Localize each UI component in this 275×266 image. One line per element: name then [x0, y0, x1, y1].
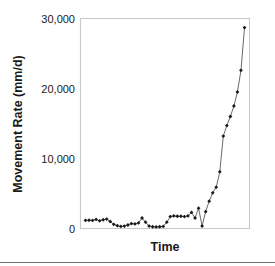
data-point — [175, 214, 179, 218]
data-point — [236, 90, 240, 94]
y-tick-label-0: 0 — [69, 223, 75, 235]
data-point — [232, 104, 236, 108]
series-markers — [84, 26, 247, 229]
data-point — [200, 224, 204, 228]
data-point — [218, 170, 222, 174]
data-point — [239, 68, 243, 72]
data-point — [91, 219, 95, 223]
data-point — [94, 218, 98, 222]
figure-container: 30,000 20,000 10,000 0 Movement Rate (mm… — [0, 0, 275, 266]
plot-frame — [81, 19, 250, 229]
data-point — [122, 224, 126, 228]
y-axis-tick-labels: 30,000 20,000 10,000 0 — [41, 13, 75, 235]
y-tick-label-20000: 20,000 — [41, 83, 75, 95]
y-tick-label-10000: 10,000 — [41, 153, 75, 165]
data-point — [228, 115, 232, 119]
data-point — [119, 225, 123, 229]
data-point — [243, 26, 247, 30]
data-point — [133, 222, 137, 226]
movement-rate-line-chart: 30,000 20,000 10,000 0 Movement Rate (mm… — [0, 0, 275, 266]
data-point — [225, 124, 229, 128]
data-point — [207, 199, 211, 203]
data-point — [87, 218, 91, 222]
y-axis-title: Movement Rate (mm/d) — [11, 55, 25, 193]
data-point — [183, 215, 187, 219]
data-point — [101, 218, 105, 222]
data-point — [98, 219, 102, 223]
x-axis-title: Time — [151, 240, 180, 254]
data-point — [84, 219, 88, 223]
footer-divider — [0, 262, 275, 263]
data-point — [204, 210, 208, 214]
data-point — [179, 214, 183, 218]
data-point — [115, 224, 119, 228]
data-point — [221, 134, 225, 138]
data-point — [130, 222, 134, 226]
data-point — [126, 223, 130, 227]
data-point — [172, 214, 176, 218]
data-series-group — [84, 26, 247, 229]
y-tick-label-30000: 30,000 — [41, 13, 75, 25]
series-line-movement-rate — [86, 28, 245, 227]
data-point — [197, 206, 201, 210]
